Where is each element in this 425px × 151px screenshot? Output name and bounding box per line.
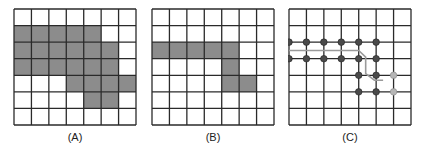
node-dot-dark xyxy=(288,39,292,46)
grid-a-graphic xyxy=(13,8,137,126)
shaded-cell xyxy=(49,26,66,43)
shaded-cell xyxy=(222,42,239,59)
shaded-cell xyxy=(101,75,118,92)
shaded-cell xyxy=(14,26,31,43)
shaded-cell xyxy=(66,75,83,92)
node-dot-light xyxy=(390,72,397,79)
shaded-cell xyxy=(49,42,66,59)
node-dot-dark xyxy=(288,55,292,62)
shaded-cell xyxy=(49,59,66,76)
label-a: (A) xyxy=(13,131,137,143)
shaded-cell xyxy=(84,75,101,92)
shaded-cell xyxy=(84,42,101,59)
shaded-cell xyxy=(101,59,118,76)
shaded-cell xyxy=(222,75,239,92)
node-dot-dark xyxy=(338,55,345,62)
shaded-cell xyxy=(152,42,169,59)
node-dot-dark xyxy=(373,72,380,79)
shaded-cell xyxy=(84,92,101,109)
label-b: (B) xyxy=(151,131,275,143)
shaded-cell xyxy=(187,42,204,59)
shaded-cell xyxy=(66,26,83,43)
shaded-cell xyxy=(14,42,31,59)
grid-c xyxy=(288,8,412,126)
panel-a xyxy=(13,8,137,126)
node-dot-dark xyxy=(373,39,380,46)
node-dot-dark xyxy=(338,39,345,46)
shaded-cell xyxy=(84,26,101,43)
node-dot-dark xyxy=(355,89,362,96)
shaded-cell xyxy=(84,59,101,76)
shaded-cell xyxy=(204,42,221,59)
node-dot-dark xyxy=(355,55,362,62)
shaded-cell xyxy=(31,42,48,59)
shaded-cell xyxy=(14,59,31,76)
node-dot-dark xyxy=(321,55,328,62)
shaded-cell xyxy=(222,59,239,76)
grid-a xyxy=(13,8,137,126)
shaded-cell xyxy=(101,92,118,109)
grid-c-graphic xyxy=(288,8,412,126)
node-dot-dark xyxy=(373,89,380,96)
panel-b xyxy=(151,8,275,126)
shaded-cell xyxy=(31,26,48,43)
node-dot-dark xyxy=(373,55,380,62)
shaded-cell xyxy=(239,75,256,92)
shaded-cell xyxy=(169,42,186,59)
node-dot-dark xyxy=(355,39,362,46)
shaded-cell xyxy=(66,59,83,76)
node-dot-light xyxy=(390,89,397,96)
node-dot-dark xyxy=(303,55,310,62)
grid-b xyxy=(151,8,275,126)
node-dot-dark xyxy=(303,39,310,46)
grid-b-graphic xyxy=(151,8,275,126)
shaded-cell xyxy=(31,59,48,76)
node-dot-dark xyxy=(355,72,362,79)
node-dot-dark xyxy=(321,39,328,46)
panel-c xyxy=(288,8,412,126)
shaded-cell xyxy=(66,42,83,59)
shaded-cell xyxy=(101,42,118,59)
label-c: (C) xyxy=(288,131,412,143)
shaded-cell xyxy=(119,75,136,92)
